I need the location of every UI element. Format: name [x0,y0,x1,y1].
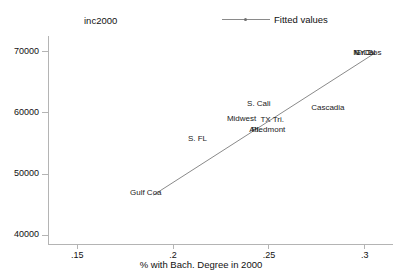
data-point-label: NYC [354,49,371,57]
x-axis-line [48,244,393,245]
data-point-label: Cascadia [311,104,344,112]
x-axis-tick: .25 [268,244,269,249]
fitted-line [48,36,393,244]
x-axis-tick: .3 [364,244,365,249]
y-axis-tick-label: 60000 [14,107,39,117]
y-variable-label: inc2000 [84,15,117,26]
legend-line-icon [222,15,270,24]
y-axis-tick-label: 70000 [14,46,39,56]
data-point-label: Gulf Coa [130,189,162,197]
data-point-label: S. FL [188,135,207,143]
data-point-label: Midwest [227,115,256,123]
data-point-label: Piedmont [252,126,286,134]
y-axis-tick-label: 50000 [14,168,39,178]
plot-area: Gulf CoaS. FLAtl.PiedmontMidwestTX Tri.S… [48,36,393,244]
data-point-label: TX Tri. [260,116,284,124]
y-axis-tick-label: 40000 [14,229,39,239]
data-point-label: S. Cali [247,100,271,108]
chart-container: inc2000 Fitted values 400005000060000700… [0,0,402,279]
chart-legend: Fitted values [222,14,328,25]
legend-item-fitted-values: Fitted values [274,14,328,25]
x-axis-title: % with Bach. Degree in 2000 [0,259,402,270]
x-axis-tick: .15 [77,244,78,249]
x-axis-tick: .2 [173,244,174,249]
clipped-header-text [48,0,348,4]
